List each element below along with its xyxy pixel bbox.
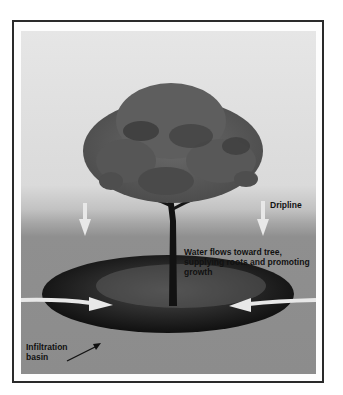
arrow-down-left-icon (79, 203, 91, 236)
arrow-down-right-icon (257, 201, 269, 236)
water-flow-line-1: Water flows toward tree, (184, 247, 310, 257)
water-flow-line-3: growth (184, 267, 310, 277)
dripline-label: Dripline (270, 200, 302, 210)
tree-infiltration-diagram: Dripline Water flows toward tree, supply… (21, 31, 316, 374)
infiltration-basin-label: Infiltration basin (26, 342, 68, 362)
water-flow-label: Water flows toward tree, supplying roots… (184, 247, 310, 277)
arrow-pointer-icon (67, 343, 101, 361)
infiltration-line-2: basin (26, 352, 68, 362)
tree-canopy (83, 83, 263, 203)
infiltration-line-1: Infiltration (26, 342, 68, 352)
water-flow-line-2: supplying roots and promoting (184, 257, 310, 267)
